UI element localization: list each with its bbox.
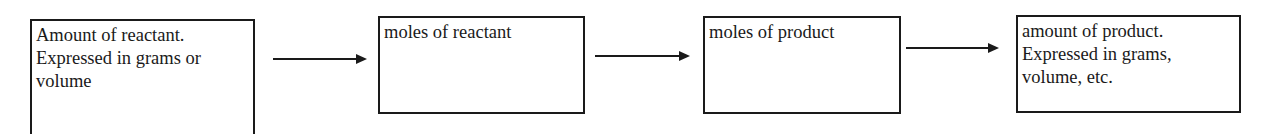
node-moles-of-product: moles of product — [703, 16, 901, 114]
node-text-line: amount of product. — [1022, 20, 1235, 43]
arrow-head — [988, 43, 999, 53]
arrow-head — [679, 51, 690, 61]
node-text-line: Expressed in grams or — [36, 47, 249, 70]
arrow-shaft — [595, 55, 680, 57]
arrow-right-icon — [906, 43, 999, 53]
node-text-line: volume — [36, 70, 249, 93]
arrow-shaft — [273, 58, 357, 60]
arrow-shaft — [906, 47, 989, 49]
arrow-head — [356, 54, 367, 64]
arrow-right-icon — [595, 51, 690, 61]
node-text-line: volume, etc. — [1022, 66, 1235, 89]
node-text-line: moles of product — [709, 21, 895, 44]
node-text-line: moles of reactant — [384, 21, 579, 44]
node-text-line: Amount of reactant. — [36, 24, 249, 47]
arrow-right-icon — [273, 54, 367, 64]
node-amount-of-reactant: Amount of reactant. Expressed in grams o… — [30, 19, 255, 134]
node-text-line: Expressed in grams, — [1022, 43, 1235, 66]
node-amount-of-product: amount of product. Expressed in grams, v… — [1016, 15, 1241, 113]
node-moles-of-reactant: moles of reactant — [378, 16, 585, 114]
